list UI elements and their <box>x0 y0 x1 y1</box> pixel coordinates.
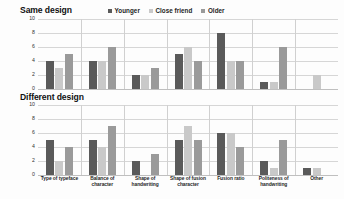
bar-group <box>81 19 124 89</box>
bar-group <box>167 19 210 89</box>
bar[interactable] <box>270 82 278 89</box>
bar[interactable] <box>55 161 63 175</box>
y-axis-tick-label: 4 <box>32 144 35 149</box>
bar[interactable] <box>89 140 97 175</box>
bar-groups <box>38 105 338 175</box>
bar[interactable] <box>279 47 287 89</box>
bar[interactable] <box>65 54 73 89</box>
bar[interactable] <box>236 61 244 89</box>
y-axis-tick-label: 10 <box>29 16 35 21</box>
y-axis-tick-label: 2 <box>32 72 35 77</box>
bar[interactable] <box>227 61 235 89</box>
bar-group <box>38 19 81 89</box>
bar[interactable] <box>141 75 149 89</box>
legend-item-label: Younger <box>115 8 140 14</box>
bar-group <box>124 105 167 175</box>
bar[interactable] <box>227 133 235 175</box>
x-axis-label: Balance of character <box>81 176 124 188</box>
chart-panel-same-design: 1086420 <box>38 19 338 89</box>
x-axis-label: Fusion ratio <box>209 176 252 188</box>
bar[interactable] <box>303 168 311 175</box>
bar[interactable] <box>98 147 106 175</box>
bar[interactable] <box>46 140 54 175</box>
bar-group <box>81 105 124 175</box>
bar[interactable] <box>279 140 287 175</box>
bar-groups <box>38 19 338 89</box>
chart-panel-different-design: 1086420 <box>38 105 338 175</box>
y-axis-tick-label: 8 <box>32 30 35 35</box>
legend-item-label: Close friend <box>155 8 192 14</box>
chart-legend: YoungerClose friendOlder <box>108 8 225 14</box>
bar[interactable] <box>236 147 244 175</box>
y-axis-tick-label: 2 <box>32 158 35 163</box>
bar[interactable] <box>108 126 116 175</box>
bar[interactable] <box>184 47 192 89</box>
plot-area-different-design: 1086420 <box>38 105 338 175</box>
bar[interactable] <box>132 75 140 89</box>
chart-page: YoungerClose friendOlder Same design Dif… <box>0 0 344 199</box>
bar[interactable] <box>151 154 159 175</box>
bar-group <box>295 105 338 175</box>
bar[interactable] <box>98 61 106 89</box>
bar-group <box>38 105 81 175</box>
square-swatch-icon <box>201 9 205 13</box>
bar-group <box>252 19 295 89</box>
y-axis-tick-label: 6 <box>32 130 35 135</box>
bar[interactable] <box>270 168 278 175</box>
y-axis-tick-label: 0 <box>32 172 35 177</box>
bar[interactable] <box>65 147 73 175</box>
legend-item-label: Older <box>208 8 225 14</box>
bar[interactable] <box>260 161 268 175</box>
bar[interactable] <box>151 68 159 89</box>
bar[interactable] <box>132 161 140 175</box>
x-axis-label: Politeness of handwriting <box>252 176 295 188</box>
square-swatch-icon <box>108 9 112 13</box>
bar[interactable] <box>108 47 116 89</box>
bar[interactable] <box>217 133 225 175</box>
bar[interactable] <box>175 140 183 175</box>
x-axis-label: Shape of fusion character <box>167 176 210 188</box>
bar-group <box>252 105 295 175</box>
x-axis-label: Type of typeface <box>38 176 81 188</box>
page-title-same-design: Same design <box>20 6 72 15</box>
plot-area-same-design: 1086420 <box>38 19 338 89</box>
y-axis-tick-label: 6 <box>32 44 35 49</box>
bar-group <box>124 19 167 89</box>
y-axis-tick-label: 0 <box>32 86 35 91</box>
legend-item-younger[interactable]: Younger <box>108 8 140 14</box>
bar-group <box>209 19 252 89</box>
bar[interactable] <box>194 61 202 89</box>
bar-group <box>167 105 210 175</box>
bar[interactable] <box>313 75 321 89</box>
x-axis-label: Other <box>295 176 338 188</box>
y-axis-tick-label: 10 <box>29 102 35 107</box>
bar[interactable] <box>194 140 202 175</box>
legend-item-older[interactable]: Older <box>201 8 224 14</box>
x-axis-labels: Type of typefaceBalance of characterShap… <box>38 176 338 188</box>
bar[interactable] <box>89 61 97 89</box>
legend-item-close-friend[interactable]: Close friend <box>149 8 193 14</box>
bar[interactable] <box>46 61 54 89</box>
y-axis-tick-label: 4 <box>32 58 35 63</box>
bar-group <box>209 105 252 175</box>
y-axis-tick-label: 8 <box>32 116 35 121</box>
bar[interactable] <box>55 68 63 89</box>
bar[interactable] <box>260 82 268 89</box>
square-swatch-icon <box>149 9 153 13</box>
bar-group <box>295 19 338 89</box>
bar[interactable] <box>313 168 321 175</box>
bar[interactable] <box>217 33 225 89</box>
bar[interactable] <box>184 126 192 175</box>
x-axis-label: Shape of handwriting <box>124 176 167 188</box>
bar[interactable] <box>175 54 183 89</box>
gridline <box>38 89 338 90</box>
page-title-different-design: Different design <box>20 93 84 102</box>
